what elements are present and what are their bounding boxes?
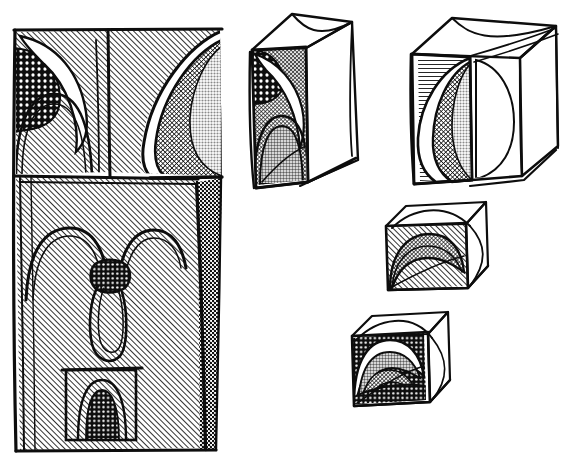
figure-canvas: Vault and dome geometry study Ink line d… bbox=[0, 0, 570, 462]
cube-study-upper-right bbox=[411, 18, 558, 186]
cube-study-upper-left bbox=[248, 14, 358, 190]
cube-study-lower bbox=[350, 312, 450, 406]
panel-outline-left bbox=[14, 30, 16, 451]
upper-left-quadrant bbox=[14, 28, 114, 178]
c4-right-curve bbox=[432, 338, 445, 400]
upper-right-quadrant bbox=[108, 28, 226, 180]
cube-study-middle bbox=[384, 202, 488, 292]
panel-outline-bottom bbox=[16, 450, 216, 451]
vault-geometry-drawing: Vault and dome geometry study Ink line d… bbox=[0, 0, 570, 462]
main-section-panel bbox=[14, 28, 226, 456]
c2-top-crease-b bbox=[470, 28, 556, 56]
niche-frame-top-rail bbox=[62, 368, 142, 370]
c1-top-crease bbox=[292, 14, 352, 31]
lower-bay bbox=[14, 176, 210, 454]
c1-right-crease bbox=[350, 24, 352, 156]
panel-outline-top bbox=[14, 29, 222, 30]
c3-top-face bbox=[386, 202, 486, 226]
c1-top-face bbox=[252, 14, 352, 50]
panel-mid-divider-vertical bbox=[108, 30, 110, 176]
c2-inner-chamber bbox=[476, 60, 514, 178]
upper-right-baseline bbox=[150, 177, 222, 178]
c2-right-back-edge bbox=[556, 28, 558, 148]
